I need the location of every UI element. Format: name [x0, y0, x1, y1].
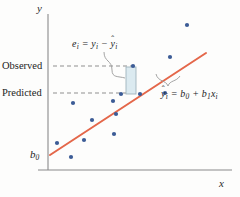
- scatter-point: [55, 141, 59, 145]
- residual-formula-hat: ˆ: [111, 35, 114, 44]
- x-axis-label: x: [219, 177, 224, 189]
- predicted-tick-label: Predicted: [2, 87, 42, 98]
- scatter-point: [82, 138, 86, 142]
- line-formula-yhat-wrap: ˆy: [161, 88, 166, 99]
- residual-formula-leader-curve: [104, 52, 125, 78]
- scatter-point: [69, 155, 73, 159]
- scatter-point: [71, 101, 75, 105]
- residual-formula: ei = yi − ˆyi: [72, 38, 118, 51]
- residual-formula-minus: −: [101, 38, 108, 49]
- intercept-label: b0: [30, 148, 39, 162]
- observed-tick-label: Observed: [2, 60, 42, 71]
- line-formula-equals: =: [171, 88, 178, 99]
- residual-formula-sub-i2: i: [96, 42, 98, 51]
- scatter-point: [114, 112, 118, 116]
- scatter-point: [90, 118, 94, 122]
- scatter-point: [112, 132, 116, 136]
- y-axis-label: y: [37, 2, 42, 14]
- scatter-point: [138, 92, 142, 96]
- scatter-point-observed: [131, 64, 135, 68]
- line-formula-sub-i2: i: [216, 92, 218, 101]
- line-formula-hat: ˆ: [162, 85, 165, 94]
- residual-rectangle: [126, 67, 136, 94]
- regression-residual-figure: y x Observed Predicted ei = yi − ˆyi ˆyi…: [0, 0, 240, 197]
- line-formula-plus: +: [192, 88, 199, 99]
- residual-formula-sub-i1: i: [77, 42, 79, 51]
- scatter-point: [185, 23, 189, 27]
- regression-line-formula: ˆyi = b0 + b1xi: [161, 88, 218, 101]
- residual-formula-yhat-wrap: ˆy: [111, 38, 116, 49]
- scatter-point: [111, 99, 115, 103]
- intercept-label-sub-0: 0: [36, 153, 40, 162]
- residual-formula-equals: =: [82, 38, 89, 49]
- line-formula-sub-0: 0: [186, 92, 190, 101]
- scatter-point: [119, 92, 123, 96]
- scatter-point: [168, 55, 172, 59]
- residual-formula-sub-i3: i: [115, 42, 117, 51]
